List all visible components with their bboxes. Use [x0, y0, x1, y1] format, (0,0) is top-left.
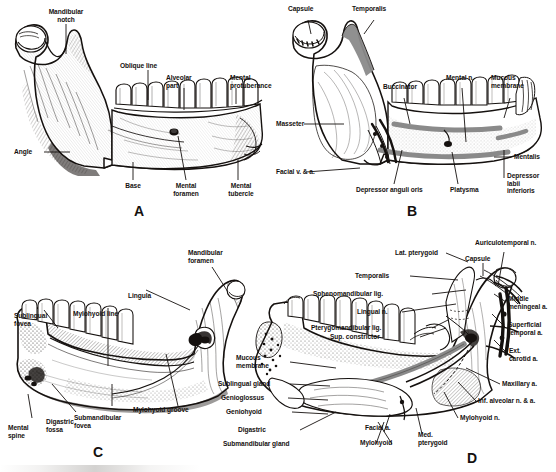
- label-mentalis: Mentalis: [514, 153, 540, 161]
- label-angle: Angle: [14, 148, 32, 156]
- label-sphenomandibular-ligament: Sphenomandibular lig.: [313, 290, 383, 298]
- label-mucous-membrane-d: Mucous membrane: [236, 354, 269, 369]
- label-mental-nerve: Mental n.: [446, 74, 474, 82]
- label-buccinator: Buccinator: [383, 83, 417, 91]
- label-middle-meningeal-artery: Middle meningeal a.: [508, 295, 547, 310]
- label-mucous-membrane-b: Mucous membrane: [491, 74, 524, 89]
- label-oblique-line: Oblique line: [120, 62, 157, 70]
- label-med-pterygoid: Med. pterygoid: [418, 431, 448, 446]
- label-pterygomandibular-ligament: Pterygomandibular lig.: [311, 324, 381, 332]
- label-mental-tubercle: Mental tubercle: [228, 182, 253, 197]
- panel-letter-c: C: [93, 444, 103, 460]
- label-base: Base: [125, 182, 141, 190]
- label-mylohyoid-line: Mylohyoid line: [73, 310, 118, 318]
- panel-b-illustration: [276, 14, 546, 186]
- label-sublingual-gland: Sublingual gland: [218, 380, 270, 388]
- label-mental-foramen: Mental foramen: [173, 182, 199, 197]
- label-mental-protuberance: Mental protuberance: [230, 74, 272, 89]
- panel-a: Mandibular notch Oblique line Alveolar p…: [0, 0, 278, 236]
- panel-letter-a: A: [134, 203, 144, 219]
- panel-letter-b: B: [407, 203, 417, 219]
- label-geniohyoid: Geniohyoid: [226, 408, 262, 416]
- label-submandibular-fovea: Submandibular fovea: [74, 414, 121, 429]
- label-inf-alveolar-nerve-artery: Inf. alveolar n. & a.: [478, 397, 535, 405]
- label-maxillary-artery: Maxillary a.: [502, 380, 537, 388]
- label-digastric-fossa: Digastric fossa: [46, 418, 74, 433]
- panel-d: Lat. pterygoid Capsule Auriculotemporal …: [280, 236, 556, 472]
- label-masseter: Masseter: [276, 120, 304, 128]
- label-mandibular-foramen: Mandibular foramen: [188, 249, 223, 264]
- label-mylohyoid-groove: Mylohyoid groove: [133, 406, 189, 414]
- label-sup-constrictor: Sup. constrictor: [330, 333, 380, 341]
- panel-letter-d: D: [467, 450, 477, 466]
- label-lingual-nerve: Lingual n.: [357, 308, 388, 316]
- label-platysma: Platysma: [450, 186, 479, 194]
- label-depressor-labii-inferioris: Depressor labii inferioris: [507, 172, 539, 195]
- label-submandibular-gland: Submandibular gland: [223, 440, 289, 448]
- anatomy-figure-plate: Mandibular notch Oblique line Alveolar p…: [0, 0, 556, 472]
- label-mental-spine: Mental spine: [8, 424, 29, 439]
- label-alveolar-part: Alveolar part: [166, 74, 192, 89]
- label-temporalis-d: Temporalis: [355, 272, 389, 280]
- label-digastric-d: Digastric: [238, 426, 266, 434]
- label-depressor-anguli-oris: Depressor anguli oris: [356, 186, 423, 194]
- label-sublingual-fovea: Sublingual fovea: [14, 312, 47, 327]
- label-ext-carotid-artery: Ext. carotid a.: [509, 347, 538, 362]
- label-capsule-d: Capsule: [465, 255, 490, 263]
- label-facial-vein-artery: Facial v. & a.: [276, 168, 315, 176]
- label-facial-artery: Facial a.: [365, 424, 391, 432]
- label-lat-pterygoid: Lat. pterygoid: [395, 249, 438, 257]
- label-lingula: Lingula: [128, 292, 151, 300]
- label-mylohyoid-d: Mylohyoid: [360, 439, 392, 447]
- label-capsule-b: Capsule: [288, 5, 313, 13]
- label-mandibular-notch: Mandibular notch: [49, 8, 84, 23]
- label-genioglossus: Genioglossus: [221, 394, 264, 402]
- page-edge-artifact: [0, 465, 556, 472]
- label-mylohyoid-nerve: Mylohyoid n.: [460, 414, 500, 422]
- label-superficial-temporal-artery: Superficial temporal a.: [508, 321, 543, 336]
- label-auriculotemporal-nerve: Auriculotemporal n.: [475, 239, 536, 247]
- label-temporalis-b: Temporalis: [352, 5, 386, 13]
- panel-b: Capsule Temporalis Buccinator Mental n. …: [278, 0, 556, 236]
- panel-a-illustration: [8, 18, 270, 188]
